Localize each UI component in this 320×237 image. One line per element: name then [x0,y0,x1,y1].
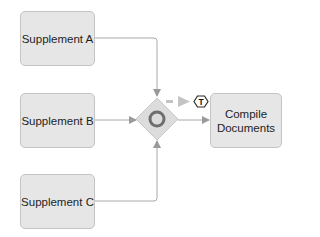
timer-marker-label: T [198,97,204,107]
inclusive-gateway[interactable] [136,98,178,140]
task-supplement-a[interactable]: Supplement A [20,11,95,66]
dashed-arrow-icon [166,96,190,107]
connector-c-to-gateway[interactable] [94,141,157,201]
timer-marker-icon[interactable]: T [194,96,208,107]
task-supplement-c[interactable]: Supplement C [20,174,95,229]
task-supplement-b[interactable]: Supplement B [20,93,95,148]
task-label: Compile Documents [217,107,275,135]
connector-a-to-gateway[interactable] [94,38,157,96]
task-compile-documents[interactable]: Compile Documents [210,93,282,148]
task-label: Supplement A [22,32,94,46]
task-label: Supplement B [21,114,93,128]
task-label: Supplement C [21,195,94,209]
